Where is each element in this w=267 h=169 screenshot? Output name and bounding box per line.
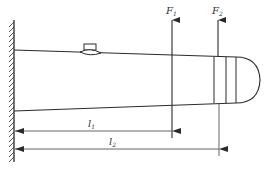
dimension-l1: l1 [15,118,172,131]
force-label: F2 [211,5,223,17]
force-label: F1 [165,5,177,17]
fixed-wall-support [9,20,14,162]
beam-bottom-edge [14,103,236,111]
wall-hatching [9,22,14,162]
dimension-label: l1 [88,118,95,130]
beam-top-edge [14,50,236,57]
strain-gauge-sensor [80,44,101,55]
dimension-l2: l2 [15,136,219,149]
dimension-label: l2 [109,136,116,148]
force-F1: F1 [165,5,177,138]
rounded-tip [236,57,260,103]
force-F2: F2 [211,5,223,156]
beam [14,50,260,111]
cantilever-diagram: F1 F2 l1 l2 [0,0,267,169]
